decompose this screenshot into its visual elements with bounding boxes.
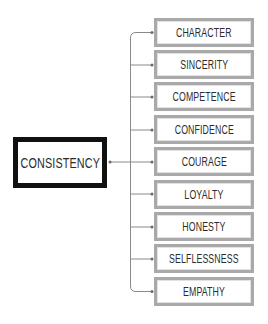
child-node-loyalty: LOYALTY xyxy=(154,180,254,209)
child-node-label: CONFIDENCE xyxy=(174,123,233,137)
child-node-confidence: CONFIDENCE xyxy=(154,115,254,144)
child-node-label: COURAGE xyxy=(181,155,226,169)
child-node-character: CHARACTER xyxy=(154,18,254,47)
child-node-empathy: EMPATHY xyxy=(154,277,254,306)
child-node-selflessness: SELFLESSNESS xyxy=(154,244,254,273)
child-node-honesty: HONESTY xyxy=(154,212,254,241)
child-node-label: COMPETENCE xyxy=(172,90,235,104)
root-node-consistency: CONSISTENCY xyxy=(13,137,107,188)
child-node-label: CHARACTER xyxy=(176,26,232,40)
child-node-sincerity: SINCERITY xyxy=(154,50,254,79)
child-node-label: EMPATHY xyxy=(183,285,225,299)
child-node-label: HONESTY xyxy=(182,220,225,234)
child-node-label: SINCERITY xyxy=(180,58,228,72)
root-node-label: CONSISTENCY xyxy=(20,154,100,171)
child-node-competence: COMPETENCE xyxy=(154,82,254,111)
child-node-label: LOYALTY xyxy=(184,188,223,202)
child-node-label: SELFLESSNESS xyxy=(169,252,239,266)
child-node-courage: COURAGE xyxy=(154,147,254,176)
